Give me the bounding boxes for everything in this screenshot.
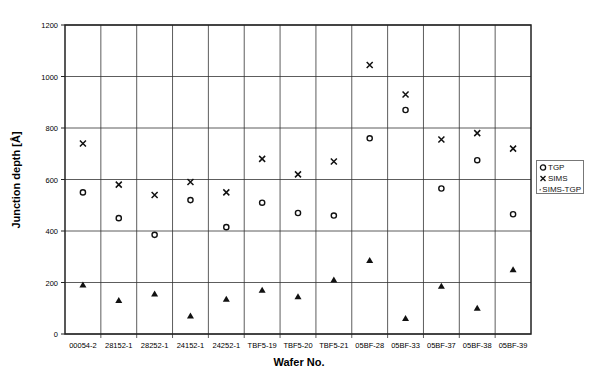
x-tick-label: TBF5-20 bbox=[283, 341, 312, 350]
y-tick-label: 1200 bbox=[41, 21, 58, 30]
point-sims bbox=[474, 130, 480, 136]
point-sims bbox=[331, 158, 337, 164]
x-tick-label: 28252-1 bbox=[141, 341, 169, 350]
point-tgp bbox=[439, 186, 444, 191]
point-tgp bbox=[260, 200, 265, 205]
x-tick-label: 24252-1 bbox=[213, 341, 241, 350]
point-sims-tgp bbox=[115, 297, 122, 303]
x-tick-label: TBF5-19 bbox=[248, 341, 277, 350]
point-sims bbox=[367, 62, 373, 68]
x-axis-ticks: 00054-228152-128252-124152-124252-1TBF5-… bbox=[69, 341, 527, 350]
y-tick-label: 0 bbox=[54, 330, 58, 339]
point-sims-tgp bbox=[187, 312, 194, 318]
chart-legend: TGP SIMS SIMS-TGP bbox=[536, 160, 584, 194]
point-tgp bbox=[188, 198, 193, 203]
triangle-filled-icon bbox=[539, 185, 541, 194]
point-sims bbox=[403, 92, 409, 98]
x-tick-label: 00054-2 bbox=[69, 341, 97, 350]
point-tgp bbox=[403, 107, 408, 112]
point-sims-tgp bbox=[438, 283, 445, 289]
point-sims bbox=[187, 179, 193, 185]
point-tgp bbox=[331, 213, 336, 218]
point-sims bbox=[80, 140, 86, 146]
x-tick-label: 05BF-38 bbox=[463, 341, 492, 350]
x-mark-icon bbox=[539, 174, 547, 183]
legend-label: SIMS bbox=[548, 173, 568, 184]
point-tgp bbox=[152, 232, 157, 237]
y-tick-label: 1000 bbox=[41, 73, 58, 82]
point-sims bbox=[223, 189, 229, 195]
legend-item-sims-tgp: SIMS-TGP bbox=[539, 184, 581, 195]
point-sims-tgp bbox=[295, 293, 302, 299]
x-tick-label: 28152-1 bbox=[105, 341, 133, 350]
point-sims bbox=[438, 137, 444, 143]
x-tick-label: 05BF-37 bbox=[427, 341, 456, 350]
x-tick-label: TBF5-21 bbox=[319, 341, 348, 350]
legend-item-sims: SIMS bbox=[539, 173, 581, 184]
point-tgp bbox=[80, 190, 85, 195]
point-sims-tgp bbox=[151, 291, 158, 297]
legend-label: SIMS-TGP bbox=[542, 184, 581, 195]
legend-label: TGP bbox=[548, 162, 564, 173]
x-tick-label: 05BF-39 bbox=[499, 341, 528, 350]
scatter-chart: 020040060080010001200 00054-228152-12825… bbox=[0, 0, 613, 388]
point-sims bbox=[295, 171, 301, 177]
point-sims-tgp bbox=[366, 257, 373, 263]
point-sims-tgp bbox=[223, 296, 230, 302]
point-sims-tgp bbox=[402, 315, 409, 321]
legend-item-tgp: TGP bbox=[539, 162, 581, 173]
point-tgp bbox=[295, 210, 300, 215]
point-tgp bbox=[510, 212, 515, 217]
x-tick-label: 24152-1 bbox=[177, 341, 205, 350]
point-sims-tgp bbox=[330, 276, 337, 282]
y-tick-label: 600 bbox=[45, 176, 58, 185]
point-tgp bbox=[116, 216, 121, 221]
y-axis-ticks: 020040060080010001200 bbox=[41, 21, 65, 339]
x-tick-label: 05BF-28 bbox=[355, 341, 384, 350]
point-tgp bbox=[224, 225, 229, 230]
point-sims-tgp bbox=[510, 266, 517, 272]
y-tick-label: 800 bbox=[45, 124, 58, 133]
grid-lines bbox=[65, 25, 531, 338]
point-tgp bbox=[367, 136, 372, 141]
point-sims bbox=[116, 182, 122, 188]
x-axis-title: Wafer No. bbox=[274, 356, 325, 368]
point-sims bbox=[259, 156, 265, 162]
point-sims bbox=[510, 146, 516, 152]
y-tick-label: 200 bbox=[45, 279, 58, 288]
point-sims-tgp bbox=[259, 287, 266, 293]
circle-open-icon bbox=[539, 163, 547, 172]
y-tick-label: 400 bbox=[45, 227, 58, 236]
x-tick-label: 05BF-33 bbox=[391, 341, 420, 350]
point-sims-tgp bbox=[474, 305, 481, 311]
point-tgp bbox=[475, 158, 480, 163]
y-axis-title: Junction depth [Å] bbox=[10, 131, 22, 228]
point-sims bbox=[152, 192, 158, 198]
